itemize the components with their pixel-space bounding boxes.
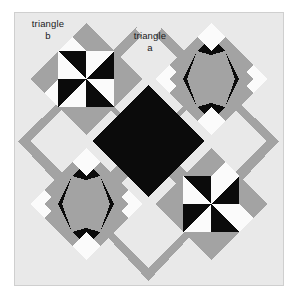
label-triangle-b-line1: triangle (32, 18, 64, 29)
label-triangle-a-line2: a (147, 42, 153, 53)
label-triangle-a-line1: triangle (134, 30, 166, 41)
quilt-diagram: triangle b triangle a (0, 0, 297, 299)
label-triangle-b-line2: b (45, 30, 50, 41)
